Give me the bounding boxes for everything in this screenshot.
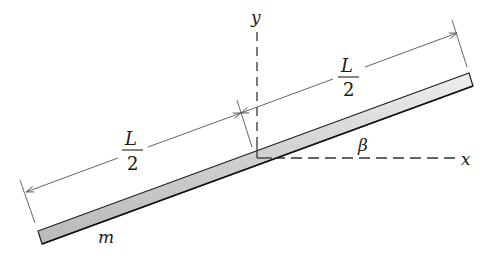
half-length-left-label: L 2 bbox=[122, 128, 143, 174]
svg-text:L: L bbox=[124, 128, 137, 149]
rod bbox=[38, 73, 473, 244]
extension-line-center bbox=[237, 100, 252, 147]
x-axis-label: x bbox=[461, 149, 471, 169]
rod-diagram: y x β m L 2 L 2 bbox=[0, 0, 502, 259]
mass-label: m bbox=[98, 227, 114, 247]
svg-text:2: 2 bbox=[127, 153, 138, 174]
svg-text:2: 2 bbox=[343, 79, 354, 100]
y-axis-label: y bbox=[250, 7, 261, 27]
angle-label: β bbox=[357, 135, 368, 155]
svg-text:L: L bbox=[340, 55, 353, 76]
half-length-right-label: L 2 bbox=[338, 55, 359, 100]
extension-line-right bbox=[452, 20, 467, 67]
extension-line-left bbox=[20, 180, 35, 223]
